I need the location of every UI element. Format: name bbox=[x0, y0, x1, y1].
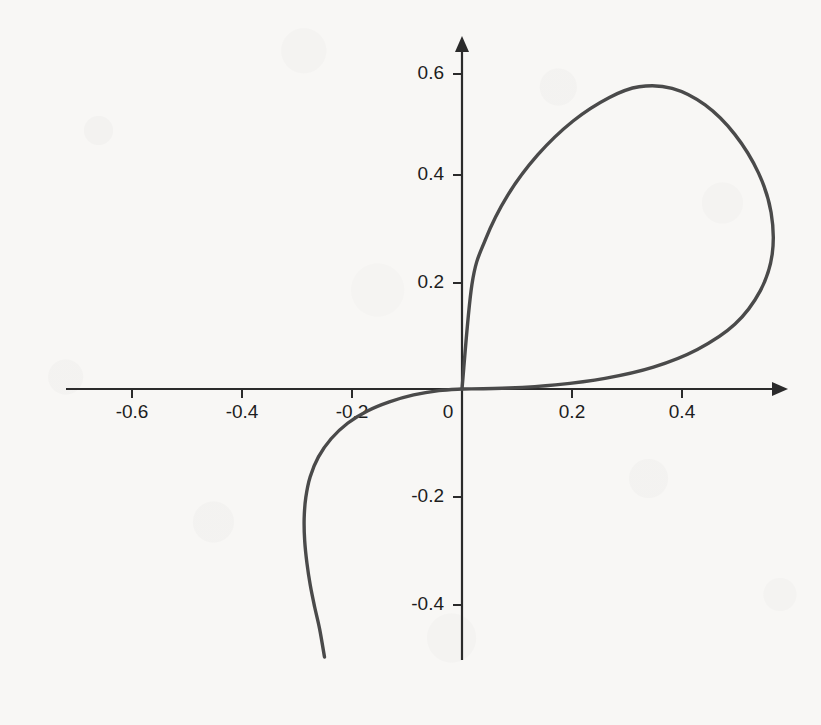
x-tick-label-0.4: 0.4 bbox=[669, 401, 696, 422]
folium-plot: -0.6 -0.4 -0.2 0 0.2 0.4 0.6 0.4 0.2 -0.… bbox=[0, 0, 821, 725]
y-tick-label-0.2: 0.2 bbox=[418, 271, 444, 292]
x-tick-label-0.2: 0.2 bbox=[559, 401, 585, 422]
y-tick-label-0.4: 0.4 bbox=[418, 163, 445, 184]
figure-canvas: -0.6 -0.4 -0.2 0 0.2 0.4 0.6 0.4 0.2 -0.… bbox=[0, 0, 821, 725]
y-tick-marks bbox=[453, 74, 462, 605]
curve-loop bbox=[462, 86, 773, 389]
x-tick-label--0.6: -0.6 bbox=[116, 401, 149, 422]
y-axis-arrowhead bbox=[455, 36, 469, 52]
y-tick-labels: 0.6 0.4 0.2 -0.2 -0.4 bbox=[411, 62, 444, 614]
y-tick-label-0.6: 0.6 bbox=[418, 62, 444, 83]
y-tick-label--0.4: -0.4 bbox=[411, 593, 444, 614]
curve-tail bbox=[304, 389, 462, 657]
x-tick-label-0: 0 bbox=[443, 401, 454, 422]
x-axis-arrowhead bbox=[772, 382, 788, 396]
x-tick-labels: -0.6 -0.4 -0.2 0 0.2 0.4 bbox=[116, 401, 696, 422]
x-tick-label--0.4: -0.4 bbox=[226, 401, 259, 422]
y-tick-label--0.2: -0.2 bbox=[411, 485, 444, 506]
